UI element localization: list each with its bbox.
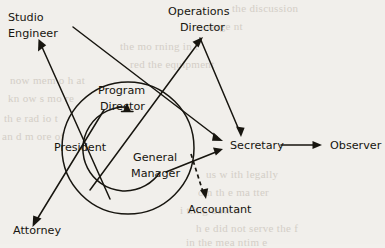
node-president[interactable]: President — [54, 141, 107, 154]
label-studio-engineer-line1: Studio — [8, 11, 44, 24]
node-operations-director[interactable]: Operations Director — [168, 5, 230, 34]
node-studio-engineer[interactable]: Studio Engineer — [8, 11, 58, 40]
arrowhead-accountant — [200, 188, 208, 199]
label-program-director-line1: Program — [98, 84, 145, 97]
label-operations-director-line2: Director — [180, 21, 225, 34]
arrowhead-studio-engineer — [38, 39, 46, 52]
label-studio-engineer-line2: Engineer — [8, 27, 58, 40]
label-program-director-line2: Director — [100, 100, 145, 113]
node-program-director[interactable]: Program Director — [98, 84, 145, 113]
arrowhead-secretary-from-operations-director — [236, 127, 245, 138]
label-general-manager-line2: Manager — [131, 167, 180, 180]
label-president: President — [54, 141, 107, 154]
node-secretary[interactable]: Secretary — [230, 139, 284, 152]
arrowhead-observer — [313, 141, 323, 149]
label-attorney: Attorney — [13, 224, 61, 237]
label-accountant: Accountant — [188, 203, 252, 216]
arrowhead-secretary-from-general-manager — [213, 148, 223, 156]
label-operations-director-line1: Operations — [168, 5, 230, 18]
arrowhead-secretary-from-studio-engineer — [212, 133, 223, 142]
edge-operations-director-to-secretary — [200, 38, 239, 130]
node-observer[interactable]: Observer — [330, 139, 382, 152]
node-accountant[interactable]: Accountant — [188, 203, 252, 216]
node-general-manager[interactable]: General Manager — [131, 151, 180, 180]
label-secretary: Secretary — [230, 139, 284, 152]
label-observer: Observer — [330, 139, 382, 152]
label-general-manager-line1: General — [133, 151, 177, 164]
node-attorney[interactable]: Attorney — [13, 224, 61, 237]
